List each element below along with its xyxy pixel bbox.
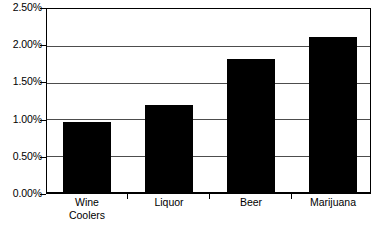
y-axis: 2.50% 2.00% 1.50% 1.00% 0.50% 0.00% <box>0 0 42 228</box>
bar-liquor <box>145 105 193 193</box>
y-tick-label: 2.50% <box>0 2 42 13</box>
y-tick-label: 0.00% <box>0 188 42 199</box>
bar-beer <box>227 59 275 193</box>
bar-marijuana <box>309 37 357 193</box>
x-tick-label-beer: Beer <box>210 196 292 209</box>
y-tick-label: 2.00% <box>0 39 42 50</box>
bars-layer <box>47 9 370 193</box>
x-tick-label-marijuana: Marijuana <box>292 196 374 209</box>
x-axis: Wine Coolers Liquor Beer Marijuana <box>46 196 371 228</box>
plot-area <box>46 8 371 194</box>
y-tick-label: 1.50% <box>0 76 42 87</box>
y-tick-label: 1.00% <box>0 114 42 125</box>
bar-wine-coolers <box>63 122 111 193</box>
x-tick-label-liquor: Liquor <box>128 196 210 209</box>
x-tick-label-line: Wine <box>75 196 99 208</box>
bar-chart: 2.50% 2.00% 1.50% 1.00% 0.50% 0.00% Wine… <box>0 0 375 228</box>
x-tick-label-line: Coolers <box>46 209 128 222</box>
y-tick-label: 0.50% <box>0 151 42 162</box>
x-axis-line <box>47 192 370 193</box>
x-tick-label-wine-coolers: Wine Coolers <box>46 196 128 222</box>
y-tick-mark <box>40 194 46 195</box>
